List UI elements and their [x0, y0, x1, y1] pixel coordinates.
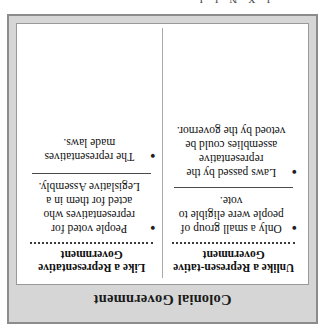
colonial-government-figure: Colonial Government Unlike a Represen-ta… [7, 14, 318, 324]
list-item: ● Only a small group of people were elig… [171, 194, 298, 236]
section-divider [175, 187, 294, 188]
list-item: ● The representatives made laws. [28, 136, 156, 166]
list-item: ● Laws passed by the representative asse… [171, 124, 298, 180]
column-header-unlike: Unlike a Represen-tative Government [171, 245, 298, 276]
list-item: ● People voted for representatives who a… [28, 180, 156, 236]
page-canvas: I X N I J Colonial Government Unlike a R… [0, 0, 325, 333]
list-item-text: People voted for representatives who act… [28, 180, 147, 236]
list-item-text: Only a small group of people were eligib… [171, 194, 289, 236]
bullet-dot-icon: ● [288, 167, 297, 180]
figure-outer-frame: Colonial Government Unlike a Represen-ta… [7, 14, 318, 324]
column-spacer [28, 30, 156, 136]
bullet-dot-icon: ● [288, 223, 297, 236]
section-divider [32, 173, 152, 174]
dotted-divider [173, 242, 296, 244]
column-header-like: Like a Representative Government [28, 245, 156, 276]
dotted-divider [30, 242, 154, 244]
column-like-representative-government: Like a Representative Government ● Peopl… [21, 28, 163, 278]
column-spacer [171, 30, 298, 124]
bullet-dot-icon: ● [147, 151, 156, 164]
cut-off-header-text: I X N I J [168, 0, 298, 6]
figure-title: Colonial Government [16, 285, 309, 315]
bullet-dot-icon: ● [147, 223, 156, 236]
list-item-text: The representatives made laws. [28, 136, 147, 164]
list-item-text: Laws passed by the representative assemb… [171, 124, 289, 180]
figure-inner-panel: Unlike a Represen-tative Government ● On… [16, 23, 309, 285]
column-unlike-representative-government: Unlike a Represen-tative Government ● On… [163, 28, 305, 278]
